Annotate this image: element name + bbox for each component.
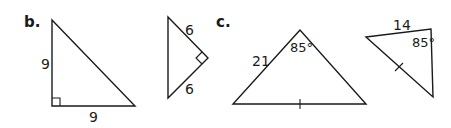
triangle-c1-apex-angle-label: 85° (290, 40, 313, 55)
part-b-label: b. (24, 13, 40, 31)
triangle-c2-top-side-label: 14 (393, 17, 411, 33)
congruence-diagram: b. 9 9 6 6 c. 21 85° 14 85° (0, 0, 451, 128)
right-angle-marker-icon (52, 98, 60, 106)
triangle-b1-vertical-leg-label: 9 (41, 56, 50, 72)
triangle-b2-lower-side-label: 6 (185, 81, 194, 97)
part-c-label: c. (216, 13, 231, 31)
right-angle-marker-icon (196, 52, 202, 64)
triangle-b1-horizontal-leg-label: 9 (89, 109, 98, 125)
triangle-b1: 9 9 (41, 20, 135, 125)
triangle-b2: 6 6 (168, 17, 208, 98)
triangle-c1-left-side-label: 21 (252, 53, 270, 69)
triangle-c2-angle-label: 85° (412, 35, 435, 50)
triangle-c2: 14 85° (366, 17, 435, 97)
triangle-b2-upper-side-label: 6 (185, 22, 194, 38)
triangle-b1-outline (52, 20, 135, 106)
triangle-c1: 21 85° (233, 30, 366, 109)
